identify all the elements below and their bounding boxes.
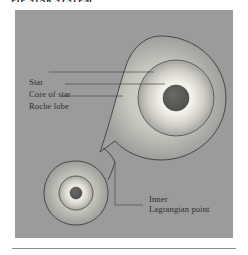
- label-inner-lagrangian-point: Inner Lagrangian point: [149, 195, 210, 214]
- label-star: Star: [29, 78, 43, 88]
- secondary-star-core: [70, 187, 82, 199]
- cropped-header-text: PIE STAR SYSTEM: [11, 0, 131, 2]
- primary-star-core: [163, 85, 189, 111]
- label-lagrangian-line2: Lagrangian point: [149, 205, 210, 215]
- label-roche-lobe: Roche lobe: [29, 102, 69, 112]
- figure-panel: Star Core of star Roche lobe Inner Lagra…: [15, 10, 233, 238]
- roche-lobe-neck: [103, 148, 115, 180]
- leader-line-lagrangian: [115, 162, 143, 205]
- label-core-of-star: Core of star: [29, 90, 71, 100]
- caption-rule: [12, 248, 236, 249]
- label-lagrangian-line1: Inner: [149, 194, 168, 204]
